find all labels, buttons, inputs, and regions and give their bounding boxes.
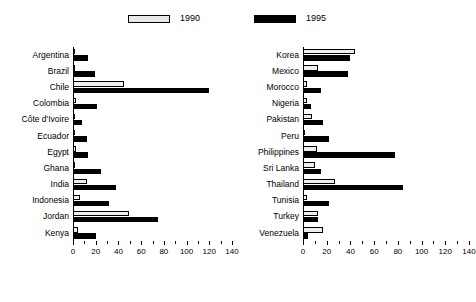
bar-group — [303, 128, 469, 144]
bar-1990 — [73, 81, 124, 86]
axis-tick-major — [141, 241, 142, 245]
axis-tick-label: 20 — [91, 248, 100, 256]
bar-row: Kenya — [4, 225, 232, 241]
bar-group — [303, 209, 469, 225]
axis-tick-major — [209, 241, 210, 245]
axis-tick-major — [303, 241, 304, 245]
category-label: Pakistan — [238, 115, 303, 124]
bar-1995 — [73, 120, 82, 125]
axis-tick-major — [96, 241, 97, 245]
chart-panel-right: KoreaMexicoMoroccoNigeriaPakistanPeruPhi… — [238, 47, 469, 295]
axis-tick-label: 0 — [71, 248, 75, 256]
category-label: Argentina — [4, 51, 73, 60]
category-label: Korea — [238, 51, 303, 60]
axis-tick-minor — [457, 241, 458, 244]
axis-tick-label: 60 — [370, 248, 379, 256]
axis-tick-label: 40 — [346, 248, 355, 256]
category-label: Ghana — [4, 164, 73, 173]
axis-tick-major — [374, 241, 375, 245]
bar-row: Tunisia — [238, 193, 469, 209]
bar-1995 — [73, 104, 97, 109]
bar-row: Philippines — [238, 144, 469, 160]
bar-1995 — [73, 169, 101, 174]
bar-1995 — [303, 201, 329, 206]
axis-tick-minor — [198, 241, 199, 244]
category-label: Mexico — [238, 67, 303, 76]
chart-legend: 1990 1995 — [0, 14, 471, 32]
bar-rows-right: KoreaMexicoMoroccoNigeriaPakistanPeruPhi… — [238, 47, 469, 241]
category-label: Sri Lanka — [238, 164, 303, 173]
category-label: Kenya — [4, 229, 73, 238]
bar-row: Ghana — [4, 160, 232, 176]
bar-group — [303, 47, 469, 63]
bar-row: Mexico — [238, 63, 469, 79]
axis-tick-major — [232, 241, 233, 245]
category-label: Jordan — [4, 212, 73, 221]
bar-1995 — [303, 217, 318, 222]
bar-group — [73, 209, 232, 225]
bar-1995 — [303, 55, 350, 60]
axis-tick-major — [73, 241, 74, 245]
bar-group — [303, 177, 469, 193]
category-label: Philippines — [238, 148, 303, 157]
plot-area-left: ArgentinaBrazilChileColombiaCôte d'Ivoir… — [4, 47, 232, 295]
category-label: Chile — [4, 83, 73, 92]
bar-row: Nigeria — [238, 96, 469, 112]
bar-row: Côte d'Ivoire — [4, 112, 232, 128]
x-axis-right: 020406080100120140 — [303, 241, 469, 267]
bar-1995 — [303, 120, 323, 125]
bar-row: Sri Lanka — [238, 160, 469, 176]
axis-tick-major — [398, 241, 399, 245]
bar-group — [73, 128, 232, 144]
axis-tick-minor — [386, 241, 387, 244]
bar-group — [73, 79, 232, 95]
bar-row: Chile — [4, 79, 232, 95]
axis-tick-major — [350, 241, 351, 245]
bar-row: Pakistan — [238, 112, 469, 128]
bar-1990 — [303, 65, 318, 70]
bar-row: Turkey — [238, 209, 469, 225]
legend-swatch-1990-icon — [128, 15, 170, 23]
bar-1990 — [303, 211, 318, 216]
category-label: Colombia — [4, 99, 73, 108]
axis-tick-label: 60 — [137, 248, 146, 256]
bar-1995 — [303, 185, 403, 190]
legend-entry-1995: 1995 — [254, 14, 326, 23]
bar-row: Indonesia — [4, 193, 232, 209]
bar-group — [73, 96, 232, 112]
bar-1990 — [303, 162, 315, 167]
axis-tick-major — [118, 241, 119, 245]
bar-1995 — [303, 136, 329, 141]
bar-group — [303, 79, 469, 95]
axis-tick-major — [469, 241, 470, 245]
legend-swatch-1995-icon — [254, 15, 296, 23]
axis-tick-minor — [410, 241, 411, 244]
bar-group — [73, 63, 232, 79]
legend-label-1995: 1995 — [306, 14, 326, 23]
legend-label-1990: 1990 — [180, 14, 200, 23]
axis-tick-minor — [339, 241, 340, 244]
bar-1995 — [303, 88, 321, 93]
y-axis-left — [73, 47, 74, 241]
bar-row: Morocco — [238, 79, 469, 95]
axis-tick-minor — [84, 241, 85, 244]
axis-tick-label: 80 — [159, 248, 168, 256]
bar-1990 — [303, 146, 317, 151]
category-label: India — [4, 180, 73, 189]
category-label: Morocco — [238, 83, 303, 92]
bar-1995 — [303, 71, 348, 76]
axis-tick-major — [445, 241, 446, 245]
bar-row: Colombia — [4, 96, 232, 112]
bar-1995 — [73, 152, 88, 157]
bar-group — [303, 193, 469, 209]
bar-rows-left: ArgentinaBrazilChileColombiaCôte d'Ivoir… — [4, 47, 232, 241]
bar-1995 — [73, 233, 96, 238]
bar-1995 — [303, 152, 395, 157]
category-label: Peru — [238, 132, 303, 141]
bar-group — [303, 160, 469, 176]
bar-row: Argentina — [4, 47, 232, 63]
category-label: Venezuela — [238, 229, 303, 238]
axis-tick-label: 0 — [301, 248, 305, 256]
bar-1995 — [73, 55, 88, 60]
axis-tick-major — [187, 241, 188, 245]
